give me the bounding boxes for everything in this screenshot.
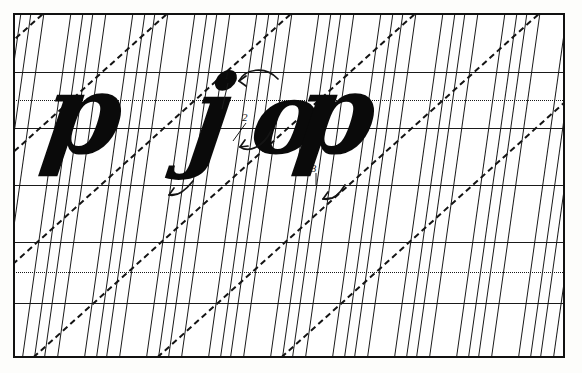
arrow-p-descender <box>13 13 565 358</box>
grid-sheet: p j o p 1 2 3 <box>13 13 565 358</box>
practice-sheet-page: p j o p 1 2 3 <box>0 0 582 373</box>
